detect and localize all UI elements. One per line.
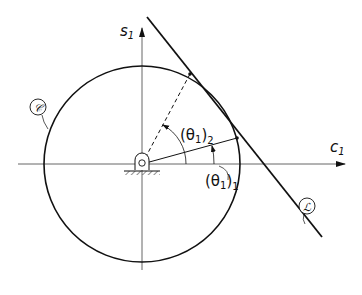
intersection-point-2 (188, 72, 192, 76)
intersection-point-1 (235, 136, 239, 140)
angle-label-theta1-2: (θ1)2 (180, 126, 214, 146)
line-l (147, 17, 322, 237)
circle-label-callout: 𝒞 (30, 99, 48, 129)
angle-label-theta1-1: (θ1)1 (205, 172, 239, 192)
angle-arc-theta1-1 (212, 146, 214, 164)
radius-theta1-2 (142, 74, 190, 164)
vertical-axis-label: s1 (120, 22, 134, 41)
line-label: ℒ (303, 201, 312, 214)
line-label-callout: ℒ (299, 198, 315, 224)
diagram-canvas: s1 c1 𝒞 ℒ (θ1)2 (θ1)1 (0, 0, 362, 295)
horizontal-axis-label: c1 (330, 138, 345, 157)
